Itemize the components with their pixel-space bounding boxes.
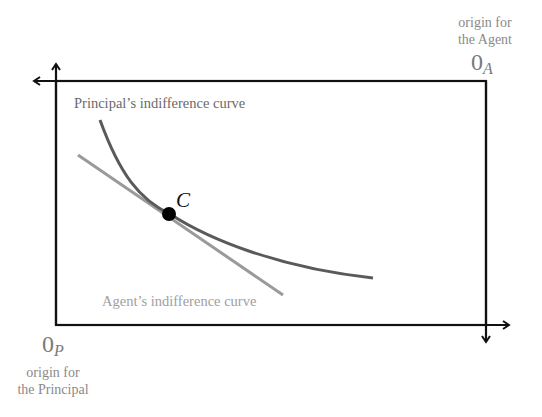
agent-origin-subscript: A bbox=[483, 60, 493, 77]
agent-origin-zero: 0 bbox=[471, 49, 483, 75]
tangency-point-label: C bbox=[176, 188, 190, 213]
principal-origin-caption-line1: origin for bbox=[8, 364, 98, 381]
principal-origin-symbol: 0P bbox=[42, 332, 64, 363]
tangency-point-c bbox=[162, 207, 176, 221]
agent-origin-caption-line2: the Agent bbox=[440, 31, 530, 48]
principal-origin-caption: origin for the Principal bbox=[8, 364, 98, 398]
agent-origin-caption-line1: origin for bbox=[440, 14, 530, 31]
edgeworth-box-diagram bbox=[0, 0, 542, 417]
principal-curve-label: Principal’s indifference curve bbox=[74, 95, 245, 112]
principal-origin-zero: 0 bbox=[42, 331, 54, 357]
principal-origin-caption-line2: the Principal bbox=[8, 381, 98, 398]
agent-origin-caption: origin for the Agent bbox=[440, 14, 530, 48]
agent-origin-symbol: 0A bbox=[471, 50, 493, 81]
agent-curve-label: Agent’s indifference curve bbox=[102, 293, 256, 310]
agent-indifference-curve bbox=[78, 155, 283, 295]
principal-origin-subscript: P bbox=[54, 342, 64, 359]
